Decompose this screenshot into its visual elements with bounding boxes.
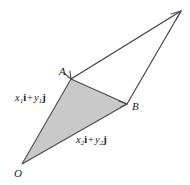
line-A-to-apex xyxy=(71,11,181,79)
vector-label-OB: x2i+y2j xyxy=(76,135,107,147)
vertex-label-O: O xyxy=(14,168,22,179)
vector-label-OA: x1i+y1j xyxy=(15,93,46,105)
vector-OA-j-basis: j xyxy=(42,92,46,103)
line-apex-to-B xyxy=(127,11,181,104)
vector-OA-operator: + xyxy=(26,92,34,103)
vector-OB-j-basis: j xyxy=(103,134,107,145)
vertex-label-A: A xyxy=(59,66,66,77)
vector-diagram-figure: O A B x1i+y1j x2i+y2j xyxy=(0,0,190,185)
vector-OB-operator: + xyxy=(87,134,95,145)
vertex-label-B: B xyxy=(132,101,139,112)
